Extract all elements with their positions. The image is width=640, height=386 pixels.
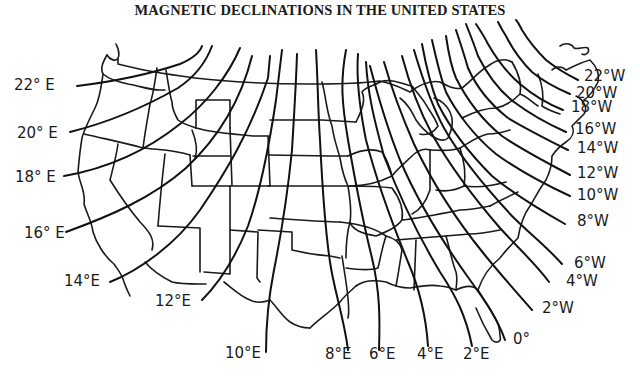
mt-wy-border	[196, 128, 268, 136]
label-6w: 6°W	[574, 254, 606, 272]
label-2e: 2°E	[463, 345, 490, 363]
nova-scotia	[560, 44, 589, 55]
label-0: 0°	[513, 330, 530, 348]
label-20e: 20° E	[17, 124, 58, 142]
label-10e: 10°E	[225, 344, 261, 362]
nd-sd-border	[270, 120, 356, 122]
isogonic-line-4e	[357, 54, 428, 346]
isogonic-line-18w	[476, 24, 563, 110]
az-nm-border	[158, 186, 230, 274]
isogonic-line-10e	[266, 54, 297, 352]
label-4e: 4°E	[417, 345, 444, 363]
label-12e: 12°E	[155, 292, 191, 310]
tx-la-border	[342, 256, 349, 318]
label-8w: 8°W	[577, 212, 609, 230]
label-10w: 10°W	[577, 186, 619, 204]
label-8e: 8°E	[325, 345, 352, 363]
declination-map: 22° E 20° E 18° E 16° E 14°E 12°E 10°E 8…	[0, 0, 640, 386]
isogonic-line-22w	[516, 20, 578, 80]
isogonic-line-0	[370, 66, 505, 340]
idaho-west	[143, 68, 157, 148]
label-12w: 12°W	[577, 164, 619, 182]
nv-ut-border	[158, 154, 165, 226]
label-22w: 22°W	[584, 67, 626, 85]
ks-ok-border	[270, 218, 340, 222]
idaho-panhandle	[166, 70, 196, 128]
sd-ne-border	[268, 155, 348, 156]
gulf-coast	[356, 281, 456, 290]
label-16e: 16° E	[24, 224, 65, 242]
label-22e: 22° E	[14, 76, 55, 94]
isogonic-line-20w	[498, 22, 570, 94]
isogonic-line-14e	[110, 56, 270, 282]
label-2w: 2°W	[542, 299, 574, 317]
isogonic-line-22e	[77, 46, 202, 86]
label-16w: 16°W	[575, 120, 617, 138]
label-20w: 20°W	[576, 84, 618, 102]
pacific-coast	[78, 55, 130, 296]
label-18e: 18° E	[15, 168, 56, 186]
label-14w: 14°W	[577, 139, 619, 157]
label-4w: 4°W	[566, 272, 598, 290]
label-14e: 14°E	[64, 272, 100, 290]
label-6e: 6°E	[369, 345, 396, 363]
kentucky-tn	[396, 206, 500, 240]
isogonic-line-18e	[64, 48, 240, 176]
